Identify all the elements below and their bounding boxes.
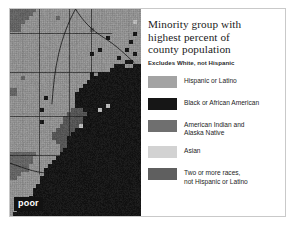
legend-label-asian: Asian <box>184 146 201 155</box>
legend-label-hispanic-or-latino: Hispanic or Latino <box>184 76 237 85</box>
legend-item-black-or-african-american[interactable]: Black or African American <box>148 98 279 111</box>
legend-swatch-two-or-more-races <box>148 168 177 180</box>
legend-item-hispanic-or-latino[interactable]: Hispanic or Latino <box>148 76 279 89</box>
choropleth-map-canvas[interactable] <box>10 9 141 216</box>
legend-label-line: American Indian and <box>184 121 244 129</box>
legend-item-asian[interactable]: Asian <box>148 146 279 159</box>
legend-items-list: Hispanic or Latino Black or African Amer… <box>148 76 279 186</box>
legend-label-line: Asian <box>184 147 201 155</box>
legend-label-line: not Hispanic or Latino <box>184 178 248 186</box>
legend-label-line: Hispanic or Latino <box>184 77 237 85</box>
figure-title-line-3: county population <box>148 43 279 56</box>
legend-item-american-indian-and-alaska-native[interactable]: American Indian and Alaska Native <box>148 120 279 138</box>
figure-title-line-2: highest percent of <box>148 31 279 44</box>
figure-subtitle: Excludes White, not Hispanic <box>148 59 279 67</box>
legend-swatch-asian <box>148 146 177 158</box>
legend-item-two-or-more-races[interactable]: Two or more races, not Hispanic or Latin… <box>148 168 279 186</box>
legend-label-american-indian-and-alaska-native: American Indian and Alaska Native <box>184 120 244 138</box>
legend-swatch-hispanic-or-latino <box>148 76 177 88</box>
figure-title-line-1: Minority group with <box>148 18 279 31</box>
legend-label-line: Alaska Native <box>184 129 244 137</box>
figure-title: Minority group with highest percent of c… <box>148 18 279 56</box>
legend-label-black-or-african-american: Black or African American <box>184 98 259 107</box>
legend-label-two-or-more-races: Two or more races, not Hispanic or Latin… <box>184 168 248 186</box>
map-figure: poor Minority group with highest percent… <box>0 0 293 226</box>
legend-label-line: Black or African American <box>184 99 259 107</box>
legend-swatch-black-or-african-american <box>148 98 177 110</box>
legend-label-line: Two or more races, <box>184 169 248 177</box>
choropleth-map-panel[interactable]: poor <box>10 9 141 216</box>
legend-panel: Minority group with highest percent of c… <box>141 9 285 216</box>
map-badge-poor: poor <box>14 197 43 211</box>
legend-swatch-american-indian-and-alaska-native <box>148 120 177 132</box>
